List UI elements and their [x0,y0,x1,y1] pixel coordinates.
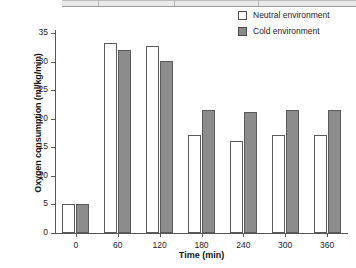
y-tick: 15 [51,147,55,148]
open-square-icon [238,11,247,20]
y-tick-label: 30 [39,56,48,67]
bar-neutral-60 [104,43,117,233]
y-tick: 10 [51,176,55,177]
bar-cold-60 [118,50,131,233]
plot-area: 05101520253035 060120180240300360 [55,33,348,233]
x-tick [327,233,328,237]
strip-divider [174,1,175,6]
x-tick [285,233,286,237]
y-tick-label: 35 [39,27,48,38]
bar-cold-300 [286,110,299,233]
y-tick: 0 [51,233,55,234]
bar-neutral-180 [188,135,201,233]
x-axis-title: Time (min) [55,250,348,260]
strip-divider [258,1,259,6]
y-tick: 20 [51,119,55,120]
bar-neutral-240 [230,141,243,233]
bar-neutral-300 [272,135,285,233]
y-tick-label: 25 [39,84,48,95]
y-tick: 25 [51,90,55,91]
y-tick-label: 0 [43,227,48,238]
y-tick-label: 5 [43,198,48,209]
bar-neutral-120 [146,46,159,233]
y-axis-line [55,30,56,234]
bar-cold-120 [160,61,173,233]
bar-neutral-0 [62,204,75,233]
bar-cold-360 [328,110,341,233]
y-tick-label: 20 [39,113,48,124]
bar-chart-figure: Neutral environment Cold environment Oxy… [0,0,356,268]
legend-item-neutral: Neutral environment [238,8,354,22]
bar-cold-0 [76,204,89,233]
strip-divider [98,1,99,6]
bar-neutral-360 [314,135,327,233]
legend-label-neutral: Neutral environment [253,10,330,20]
y-tick: 5 [51,204,55,205]
y-tick-label: 10 [39,170,48,181]
x-tick [118,233,119,237]
cropped-toolbar-strip [62,0,356,7]
x-tick [202,233,203,237]
y-tick: 35 [51,33,55,34]
bar-cold-180 [202,110,215,233]
bar-cold-240 [244,112,257,233]
y-tick: 30 [51,62,55,63]
x-tick [76,233,77,237]
x-tick [243,233,244,237]
x-tick [160,233,161,237]
y-tick-label: 15 [39,141,48,152]
